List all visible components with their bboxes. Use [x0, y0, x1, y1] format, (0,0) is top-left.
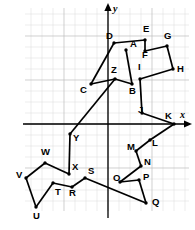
vertex-dot-Q: [144, 201, 147, 204]
x-axis-arrow-icon: [184, 120, 192, 127]
point-label-N: N: [144, 156, 151, 167]
point-label-Z: Z: [111, 64, 117, 75]
figure-svg: x y ABCDEFGHIJKLMNOPQRSTUVWXYZ: [0, 0, 195, 230]
vertex-dot-T: [51, 181, 54, 184]
point-label-O: O: [113, 172, 120, 183]
segment-LM: [136, 140, 150, 151]
point-label-R: R: [69, 187, 76, 198]
point-label-S: S: [88, 165, 94, 176]
vertex-labels: ABCDEFGHIJKLMNOPQRSTUVWXYZ: [16, 23, 184, 221]
vertex-dot-S: [83, 176, 86, 179]
segment-PQ: [139, 180, 146, 203]
segment-MN: [136, 151, 141, 166]
segment-AB: [126, 50, 132, 84]
vertex-dot-N: [139, 164, 142, 167]
point-label-D: D: [106, 30, 113, 41]
vertex-dot-I: [138, 77, 141, 80]
point-label-A: A: [130, 38, 137, 49]
segment-TU: [36, 183, 53, 207]
point-label-F: F: [142, 49, 148, 60]
vertex-dot-U: [34, 205, 37, 208]
vertex-dot-K: [172, 122, 175, 125]
point-label-E: E: [143, 23, 149, 34]
vertex-dot-W: [43, 161, 46, 164]
point-label-W: W: [41, 146, 50, 157]
vertex-dot-P: [137, 178, 140, 181]
point-label-Q: Q: [152, 196, 159, 207]
vertex-dot-V: [24, 176, 27, 179]
vertex-dot-X: [67, 172, 70, 175]
vertex-dot-G: [165, 44, 168, 47]
point-label-G: G: [164, 30, 171, 41]
point-label-K: K: [165, 110, 172, 121]
x-axis-label: x: [179, 109, 185, 120]
vertex-dot-C: [89, 82, 92, 85]
vertex-dot-Y: [68, 132, 71, 135]
coordinate-figure: x y ABCDEFGHIJKLMNOPQRSTUVWXYZ: [0, 0, 195, 230]
point-label-C: C: [80, 84, 87, 95]
y-axis-arrow-icon: [104, 3, 111, 11]
segment-XY: [69, 134, 70, 174]
point-label-X: X: [72, 161, 79, 172]
vertex-dot-E: [143, 38, 146, 41]
vertex-dot-A: [124, 48, 127, 51]
point-label-U: U: [33, 210, 40, 221]
point-label-P: P: [143, 171, 150, 182]
segment-GH: [167, 46, 173, 69]
point-label-Y: Y: [73, 132, 80, 143]
y-axis-label: y: [112, 3, 118, 14]
vertex-dot-D: [112, 41, 115, 44]
point-label-J: J: [138, 104, 143, 115]
point-label-V: V: [16, 169, 23, 180]
point-label-M: M: [127, 141, 135, 152]
segment-SR: [72, 178, 85, 187]
segment-HI: [140, 69, 173, 79]
point-label-H: H: [177, 63, 184, 74]
segment-WX: [45, 163, 69, 174]
point-label-T: T: [55, 186, 61, 197]
point-label-I: I: [138, 61, 141, 72]
vertex-dot-Z: [113, 77, 116, 80]
vertex-dot-H: [171, 67, 174, 70]
point-label-B: B: [129, 85, 136, 96]
point-label-L: L: [152, 137, 158, 148]
